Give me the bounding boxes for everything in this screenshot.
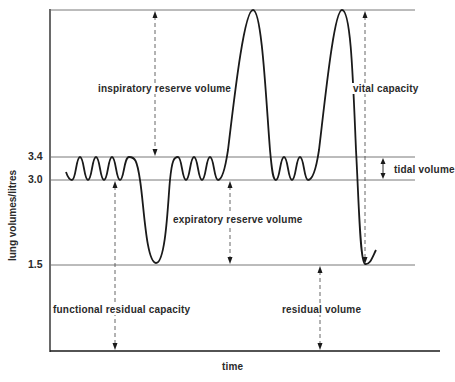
- label-vital-capacity: vital capacity: [352, 83, 420, 94]
- volume-trace: [66, 10, 376, 264]
- y-axis-label: lung volumes/litres: [7, 156, 18, 276]
- vc-arrow-head-up: [363, 11, 368, 18]
- erv-arrow-head-down: [228, 257, 233, 264]
- label-expiratory-reserve-volume: expiratory reserve volume: [172, 214, 304, 225]
- tick-1-5: 1.5: [28, 258, 43, 270]
- frc-arrow-head-down: [113, 343, 118, 350]
- rv-arrow-head-down: [318, 343, 323, 350]
- label-tidal-volume: tidal volume: [394, 164, 455, 175]
- tv-arrow-head-down: [381, 173, 386, 179]
- tick-3-4: 3.4: [28, 150, 43, 162]
- tick-3-0: 3.0: [28, 173, 43, 185]
- irv-arrow-head-down: [153, 149, 158, 156]
- label-inspiratory-reserve-volume: inspiratory reserve volume: [96, 83, 233, 94]
- frc-arrow-head-up: [113, 181, 118, 188]
- tv-arrow-head-up: [381, 158, 386, 164]
- erv-arrow-head-up: [228, 181, 233, 188]
- rv-arrow-head-up: [318, 266, 323, 273]
- x-axis-label: time: [222, 361, 243, 372]
- label-functional-residual-capacity: functional residual capacity: [52, 304, 191, 315]
- irv-arrow-head-up: [153, 11, 158, 18]
- label-residual-volume: residual volume: [281, 304, 362, 315]
